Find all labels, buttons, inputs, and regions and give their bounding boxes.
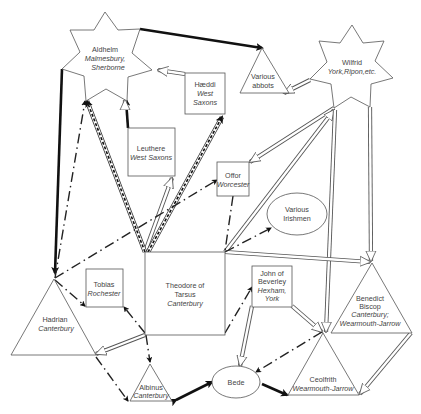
node-various-abbots[interactable]: Various abbots — [240, 48, 289, 93]
haeddi-place: West — [197, 89, 214, 98]
node-offor[interactable]: Offor Worcester — [217, 162, 250, 196]
irishmen-line2: Irishmen — [283, 214, 311, 223]
theodore-place: Canterbury — [167, 299, 203, 308]
wilfrid-place: York,Ripon,etc. — [328, 67, 377, 76]
edge-aldhelm-abbots — [140, 29, 262, 48]
hollow-edges — [96, 70, 411, 394]
node-hadrian[interactable]: Hadrian Canterbury — [11, 279, 96, 355]
theodore-line1: Theodore of — [166, 281, 205, 290]
ceolfrith-name: Ceolfrith — [310, 375, 337, 384]
benedict-place2: Wearmouth-Jarrow — [340, 319, 402, 328]
aldhelm-place-2: Sherborne — [91, 63, 125, 72]
node-various-irishmen[interactable]: Various Irishmen — [267, 193, 327, 235]
leuthere-place: West Saxons — [130, 153, 173, 162]
dash-dot-edges — [55, 101, 322, 401]
node-leuthere[interactable]: Leuthere West Saxons — [128, 128, 175, 176]
haeddi-place-2: Saxons — [193, 98, 217, 107]
abbots-line2: abbots — [252, 81, 274, 90]
node-haeddi[interactable]: Hæddi West Saxons — [185, 73, 225, 114]
node-albinus[interactable]: Albinus Canterbury — [130, 364, 172, 401]
offor-name: Offor — [225, 171, 241, 180]
tobias-place: Rochester — [88, 289, 121, 298]
node-wilfrid[interactable]: Wilfrid York,Ripon,etc. — [310, 25, 393, 108]
node-bede[interactable]: Bede — [212, 366, 260, 398]
abbots-line1: Various — [251, 72, 275, 81]
albinus-place: Canterbury — [133, 391, 169, 400]
node-ceolfrith[interactable]: Ceolfrith Wearmouth-Jarrow — [288, 333, 359, 395]
ceolfrith-place: Wearmouth-Jarrow — [293, 384, 355, 393]
theodore-line2: Tarsus — [174, 290, 196, 299]
edge-albinus-bede — [176, 382, 212, 400]
node-aldhelm[interactable]: Aldhelm Malmesbury, Sherborne — [62, 12, 152, 101]
tobias-name: Tobias — [94, 280, 115, 289]
haeddi-name: Hæddi — [194, 80, 216, 89]
aldhelm-place: Malmesbury, — [85, 54, 126, 63]
diagram-canvas: Aldhelm Malmesbury, Sherborne Wilfrid Yo… — [0, 0, 421, 414]
edge-bede-ceolfrith — [262, 384, 287, 395]
john-line4: York — [265, 294, 280, 303]
john-line2: Beverley — [258, 277, 286, 286]
irishmen-line1: Various — [285, 205, 309, 214]
node-theodore[interactable]: Theodore of Tarsus Canterbury — [145, 252, 225, 335]
hadrian-place: Canterbury — [38, 324, 74, 333]
offor-place: Worcester — [217, 180, 250, 189]
leuthere-name: Leuthere — [137, 144, 165, 153]
edge-aldhelm-hadrian — [55, 69, 62, 273]
hadrian-name: Hadrian — [42, 315, 67, 324]
bede-name: Bede — [228, 378, 245, 387]
benedict-place1: Canterbury; — [351, 310, 389, 319]
aldhelm-name: Aldhelm — [92, 45, 118, 54]
node-tobias[interactable]: Tobias Rochester — [86, 269, 123, 307]
wilfrid-name: Wilfrid — [342, 58, 362, 67]
node-benedict-biscop[interactable]: Benedict Biscop Canterbury; Wearmouth-Ja… — [331, 263, 412, 333]
node-john-of-beverley[interactable]: John of Beverley Hexham, York — [252, 266, 292, 307]
